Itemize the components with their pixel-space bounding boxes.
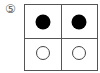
open-circle-icon (37, 47, 50, 60)
filled-circle-icon (72, 15, 87, 30)
open-circle-icon (73, 47, 86, 60)
filled-circle-icon (36, 15, 51, 30)
grid-diagram (0, 0, 100, 73)
